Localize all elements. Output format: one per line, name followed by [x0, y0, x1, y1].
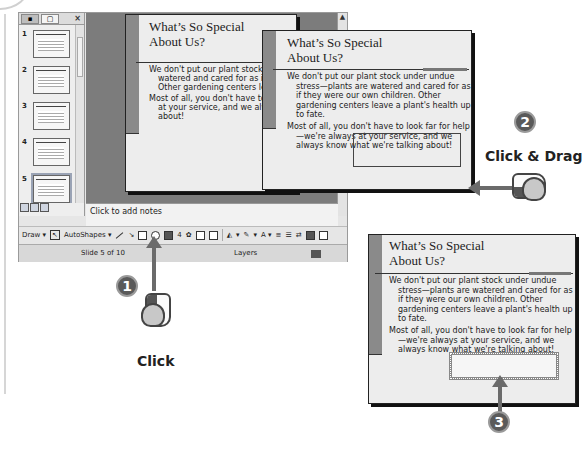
design-template-name: Layers [234, 249, 257, 257]
thumbnail-number: 3 [19, 102, 29, 110]
dash-style-icon[interactable]: ☰ [285, 231, 291, 239]
mouse-drag-icon [512, 173, 546, 199]
autoshapes-menu-button[interactable]: AutoShapes ▾ [64, 231, 112, 239]
step-1-badge: 1 [116, 275, 138, 297]
slide-show-button[interactable] [40, 203, 49, 212]
fill-color-dropdown[interactable]: ▾ [236, 231, 240, 239]
slide-indicator: Slide 5 of 10 [81, 249, 125, 257]
page-margin-rule [4, 14, 6, 394]
scrollbar-thumb[interactable] [77, 37, 83, 77]
slide-thumbnail-selected[interactable] [33, 175, 70, 203]
slide-title: What’s So SpecialAbout Us? [149, 20, 244, 50]
thumbnail-scrollbar[interactable] [75, 25, 84, 203]
line-color-icon[interactable]: ✎ [244, 231, 250, 239]
drawn-text-box-outline[interactable] [353, 133, 461, 167]
arrow-icon[interactable]: ↘ [128, 231, 134, 239]
thumbnail-1[interactable]: 1 [19, 30, 70, 58]
toolbar-separator [222, 229, 223, 241]
slide-zoom-drag: What’s So SpecialAbout Us? We don't put … [262, 30, 472, 190]
draw-menu-button[interactable]: Draw ▾ [22, 231, 46, 239]
slide-title: What’s So SpecialAbout Us? [287, 36, 382, 66]
line-color-dropdown[interactable]: ▾ [253, 231, 257, 239]
slide-thumbnail[interactable] [33, 30, 70, 58]
step-1-arrow [152, 246, 156, 291]
view-buttons [19, 203, 49, 215]
thumbnail-number: 2 [19, 66, 29, 74]
title-accent-rule [529, 272, 571, 275]
thumbnail-list: 1 2 3 4 5 [19, 25, 84, 203]
pane-tabs: ▪ ▢ × [19, 13, 84, 25]
step-1-label: Click [137, 353, 174, 369]
fill-color-icon[interactable]: ◭ [227, 231, 232, 239]
thumbnail-number: 1 [19, 30, 29, 38]
step-2-badge: 2 [514, 111, 536, 133]
thumbnail-2[interactable]: 2 [19, 66, 70, 94]
thumbnail-3[interactable]: 3 [19, 102, 70, 130]
line-icon[interactable] [116, 232, 124, 239]
step-2-label: Click & Drag [485, 148, 582, 164]
notes-placeholder: Click to add notes [90, 207, 162, 216]
step-2-arrow [478, 186, 512, 190]
font-color-button[interactable]: A ▾ [261, 231, 272, 239]
diagram-icon[interactable]: ✿ [186, 231, 192, 239]
thumbnail-number: 5 [19, 175, 29, 183]
shadow-style-icon[interactable] [306, 231, 315, 240]
slides-pane: ▪ ▢ × 1 2 3 4 5 [19, 13, 85, 216]
clip-art-icon[interactable] [196, 231, 205, 240]
line-style-icon[interactable]: ≡ [276, 231, 282, 239]
slide-accent-bar [263, 31, 276, 129]
thumbnail-5[interactable]: 5 [19, 175, 70, 203]
slide-thumbnail[interactable] [33, 102, 70, 130]
select-objects-icon[interactable]: ↖ [50, 230, 60, 240]
status-bar: Slide 5 of 10 Layers [19, 244, 347, 262]
mouse-click-icon [145, 293, 171, 327]
slide-thumbnail[interactable] [33, 138, 70, 166]
wordart-icon[interactable]: 4 [177, 231, 181, 239]
step-3-arrow [498, 385, 502, 413]
notes-pane[interactable]: Click to add notes [86, 203, 338, 226]
text-box-icon[interactable] [164, 231, 173, 240]
thumbnail-4[interactable]: 4 [19, 138, 70, 166]
slide-sorter-view-button[interactable] [30, 203, 39, 212]
slide-zoom-result: What’s So SpecialAbout Us? We don't put … [368, 234, 576, 404]
spell-check-icon [311, 250, 321, 258]
slide-thumbnail[interactable] [33, 66, 70, 94]
decorative-arc [0, 0, 30, 10]
3d-style-icon[interactable] [319, 231, 328, 240]
arrow-style-icon[interactable]: ⇄ [296, 231, 302, 239]
thumbnail-number: 4 [19, 138, 29, 146]
slide-title: What’s So SpecialAbout Us? [389, 239, 484, 269]
slide-body-text: We don't put our plant stock under undue… [389, 276, 575, 357]
close-pane-button[interactable]: × [74, 14, 81, 23]
step-3-badge: 3 [488, 411, 510, 433]
title-accent-rule [423, 68, 467, 71]
drawing-toolbar: Draw ▾ ↖ AutoShapes ▾ ↘ 4 ✿ ◭ ▾ ✎ ▾ A ▾ … [19, 226, 347, 243]
slide-accent-bar [126, 15, 139, 134]
outline-tab[interactable]: ▪ [21, 14, 39, 24]
normal-view-button[interactable] [20, 203, 29, 212]
slide-accent-bar [369, 235, 382, 355]
insert-picture-icon[interactable] [209, 231, 218, 240]
slides-tab[interactable]: ▢ [41, 14, 59, 24]
